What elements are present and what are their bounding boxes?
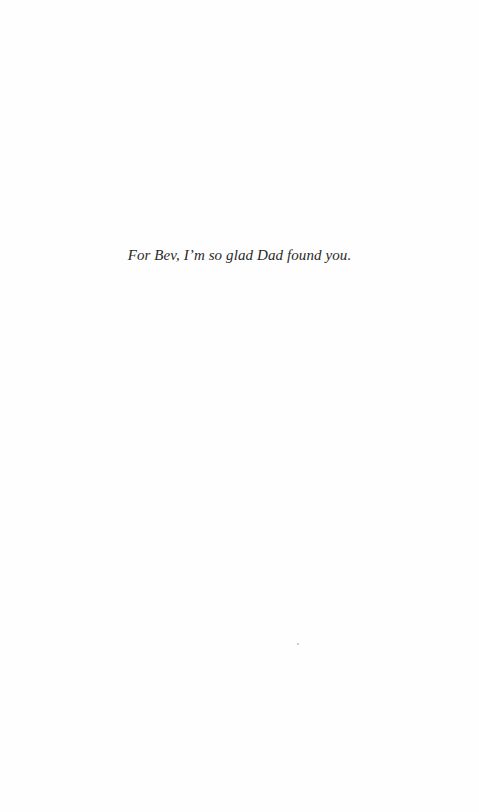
book-page: For Bev, I’m so glad Dad found you. <box>0 0 479 812</box>
dedication-text: For Bev, I’m so glad Dad found you. <box>0 247 479 264</box>
page-speck <box>297 643 299 645</box>
